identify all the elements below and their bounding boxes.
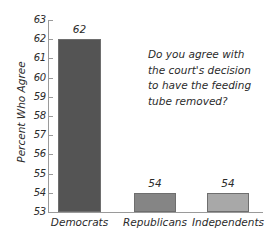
bar-value-label: 54 — [207, 178, 249, 189]
annotation-line: tube removed? — [148, 94, 270, 110]
bar-value-label: 62 — [58, 24, 101, 35]
bar — [134, 193, 176, 212]
x-axis-category-label: Independents — [183, 216, 273, 228]
bar — [207, 193, 249, 212]
annotation-line: the court's decision — [148, 63, 270, 79]
bar — [58, 39, 101, 212]
bar-value-label: 54 — [134, 178, 176, 189]
annotation-text: Do you agree withthe court's decisionto … — [148, 47, 270, 109]
annotation-line: to have the feeding — [148, 78, 270, 94]
bar-chart: Percent Who Agree 6362616059585756555453… — [0, 0, 275, 241]
plot-area: 62Democrats54Republicans54Independents — [0, 0, 275, 241]
annotation-line: Do you agree with — [148, 47, 270, 63]
